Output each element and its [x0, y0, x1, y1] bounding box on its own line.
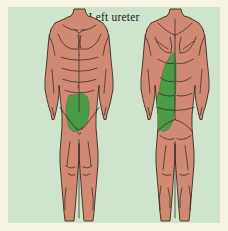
anatomy-illustration — [8, 7, 220, 223]
anatomy-figure-card: Left ureter — [0, 0, 228, 231]
illustration-panel: Left ureter — [8, 7, 220, 223]
posterior-figure — [141, 9, 209, 221]
anterior-figure — [45, 9, 113, 221]
